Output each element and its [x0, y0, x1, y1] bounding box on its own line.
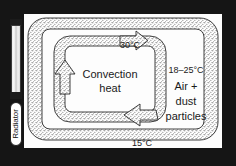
radiator-unit: [10, 19, 22, 99]
diagram-panel: 30°C 15°C Convection heat 18–25°C Air + …: [24, 14, 222, 148]
label-air-temperature-range: 18–25°C: [160, 65, 212, 75]
label-top-temperature: 30°C: [110, 40, 150, 50]
diagram-page: 30°C 15°C Convection heat 18–25°C Air + …: [0, 0, 236, 166]
radiator-cap-bottom: [10, 92, 22, 99]
label-convection-line1: Convection: [72, 68, 148, 80]
label-bottom-temperature: 15°C: [122, 138, 162, 148]
label-convection-line2: heat: [72, 82, 148, 94]
arrow-bottom-left: [124, 104, 158, 126]
label-air-line2: dust: [160, 95, 212, 107]
label-air-line3: particles: [154, 110, 218, 122]
label-air-line1: Air +: [160, 80, 212, 92]
radiator-label: Radiator: [10, 102, 22, 146]
radiator-panel-icon: [11, 25, 21, 93]
